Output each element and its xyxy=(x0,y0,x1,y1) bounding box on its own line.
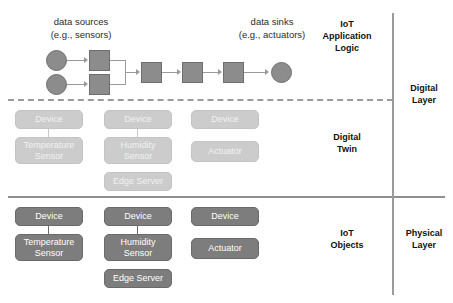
flow-processor-node-2 xyxy=(89,74,110,95)
physical-box-col2-humidity-sensor[interactable]: Humidity Sensor xyxy=(104,234,172,261)
layer-label-physical-line1: Physical xyxy=(399,227,449,239)
twin-box-col1-temperature-sensor-line1: Temperature xyxy=(24,140,75,151)
tier-label-application-logic-line2: Application xyxy=(311,30,383,42)
physical-box-col1-temperature-sensor-line2: Sensor xyxy=(35,248,64,259)
twin-box-col1-device[interactable]: Device xyxy=(15,110,83,129)
flow-edge-chain-1 xyxy=(162,72,178,73)
physical-box-col3-actuator[interactable]: Actuator xyxy=(191,238,259,259)
twin-box-col3-device[interactable]: Device xyxy=(191,110,259,129)
layer-label-physical-line2: Layer xyxy=(399,239,449,251)
flow-source-node-1 xyxy=(46,50,67,71)
flow-edge-chain-3 xyxy=(244,72,266,73)
tier-label-digital-twin: Digital Twin xyxy=(311,131,383,155)
tier-label-iot-objects-line1: IoT xyxy=(311,227,383,239)
layer-label-digital-line1: Digital xyxy=(399,82,449,94)
layer-column-divider xyxy=(392,13,394,295)
tier-label-digital-twin-line2: Twin xyxy=(311,143,383,155)
physical-box-col1-temperature-sensor[interactable]: Temperature Sensor xyxy=(15,234,83,261)
flow-edge-source2 xyxy=(67,84,85,85)
tier-label-digital-twin-line1: Digital xyxy=(311,131,383,143)
flow-arrowhead-chain-3 xyxy=(265,69,269,75)
flow-edge-source1 xyxy=(67,60,85,61)
layer-label-digital: Digital Layer xyxy=(399,82,449,106)
flow-processor-node-5 xyxy=(223,62,244,83)
flow-arrowhead-chain-1 xyxy=(177,69,181,75)
twin-box-col3-actuator[interactable]: Actuator xyxy=(191,141,259,162)
flow-arrowhead-chain-2 xyxy=(218,69,222,75)
flow-processor-node-1 xyxy=(89,50,110,71)
twin-box-col2-humidity-sensor[interactable]: Humidity Sensor xyxy=(104,137,172,164)
tier-label-iot-objects-line2: Objects xyxy=(311,239,383,251)
physical-box-col2-device[interactable]: Device xyxy=(104,207,172,226)
flow-source-node-2 xyxy=(46,74,67,95)
twin-box-col2-humidity-sensor-line2: Sensor xyxy=(124,151,153,162)
diagram-canvas: data sources (e.g., sensors) data sinks … xyxy=(0,0,453,303)
tier-label-application-logic-line3: Logic xyxy=(311,42,383,54)
data-sources-caption-line1: data sources xyxy=(22,16,140,29)
flow-processor-node-3 xyxy=(141,62,162,83)
twin-box-col2-humidity-sensor-line1: Humidity xyxy=(120,140,155,151)
physical-box-col3-device[interactable]: Device xyxy=(191,207,259,226)
flow-arrowhead-merge-out xyxy=(136,69,140,75)
data-sources-caption: data sources (e.g., sensors) xyxy=(22,16,140,41)
flow-edge-merge-top xyxy=(110,60,126,61)
layer-label-digital-line2: Layer xyxy=(399,94,449,106)
flow-edge-chain-2 xyxy=(203,72,219,73)
flow-processor-node-4 xyxy=(182,62,203,83)
physical-layer-solid-divider xyxy=(8,196,445,198)
twin-box-col1-temperature-sensor-line2: Sensor xyxy=(35,151,64,162)
flow-arrowhead-source1 xyxy=(84,57,88,63)
physical-box-col2-edge-server[interactable]: Edge Server xyxy=(104,269,172,288)
digital-layer-dashed-divider xyxy=(8,99,393,101)
tier-label-application-logic: IoT Application Logic xyxy=(311,18,383,54)
physical-box-col2-humidity-sensor-line2: Sensor xyxy=(124,248,153,259)
twin-box-col1-temperature-sensor[interactable]: Temperature Sensor xyxy=(15,137,83,164)
flow-sink-node-1 xyxy=(271,62,292,83)
tier-label-application-logic-line1: IoT xyxy=(311,18,383,30)
physical-box-col2-humidity-sensor-line1: Humidity xyxy=(120,237,155,248)
physical-box-col1-device[interactable]: Device xyxy=(15,207,83,226)
twin-box-col2-device[interactable]: Device xyxy=(104,110,172,129)
twin-box-col2-edge-server[interactable]: Edge Server xyxy=(104,172,172,191)
physical-box-col1-temperature-sensor-line1: Temperature xyxy=(24,237,75,248)
flow-edge-merge-bottom xyxy=(110,84,126,85)
data-sources-caption-line2: (e.g., sensors) xyxy=(22,29,140,42)
tier-label-iot-objects: IoT Objects xyxy=(311,227,383,251)
flow-arrowhead-source2 xyxy=(84,81,88,87)
layer-label-physical: Physical Layer xyxy=(399,227,449,251)
